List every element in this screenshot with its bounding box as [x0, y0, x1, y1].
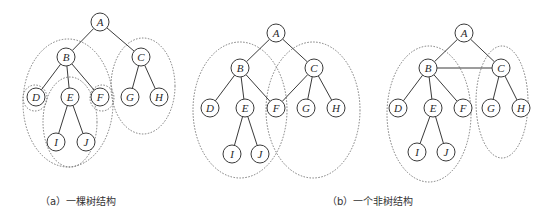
edge-a-B-F [72, 64, 94, 90]
node-b-B: B [231, 59, 249, 77]
node-label: D [393, 102, 402, 114]
edge-c-A-B [434, 39, 457, 61]
edge-b-B-D [215, 75, 234, 101]
edge-b-A-B [246, 39, 269, 61]
node-c-J: J [437, 143, 455, 161]
edge-b-A-C [283, 39, 308, 62]
node-label: B [425, 62, 432, 74]
edge-a-C-H [145, 65, 156, 89]
node-label: B [63, 51, 70, 63]
edge-a-A-C [107, 28, 134, 51]
node-label: C [137, 51, 145, 63]
node-label: G [487, 102, 495, 114]
node-label: E [429, 102, 437, 114]
node-label: E [241, 102, 249, 114]
node-label: F [272, 102, 280, 114]
edge-b-B-F [246, 75, 270, 102]
edge-b-B-E [241, 77, 244, 99]
node-label: A [272, 27, 280, 39]
node-a-D: D [27, 88, 45, 106]
node-label: H [331, 102, 341, 114]
node-label: B [237, 62, 244, 74]
edge-c-C-G [493, 77, 499, 100]
node-c-H: H [512, 99, 530, 117]
node-b-G: G [297, 99, 315, 117]
edges [41, 28, 517, 146]
edge-c-B-D [403, 75, 422, 101]
edge-c-C-H [505, 76, 517, 100]
node-b-J: J [251, 145, 269, 163]
node-b-H: H [327, 99, 345, 117]
node-a-I: I [47, 133, 65, 151]
node-label: C [497, 62, 505, 74]
node-label: A [96, 16, 104, 28]
node-label: G [302, 102, 310, 114]
node-label: D [31, 91, 40, 103]
edge-c-E-J [436, 117, 444, 144]
node-label: H [154, 91, 164, 103]
node-label: E [66, 91, 74, 103]
node-a-A: A [91, 13, 109, 31]
node-label: G [126, 91, 134, 103]
node-c-A: A [455, 24, 473, 42]
edge-c-A-C [471, 39, 495, 62]
edge-b-C-G [308, 77, 312, 99]
caption-figure-b: （b）一个非树结构 [327, 193, 413, 208]
node-b-I: I [223, 145, 241, 163]
node-c-I: I [408, 143, 426, 161]
node-c-B: B [419, 59, 437, 77]
edge-c-B-F [434, 75, 457, 101]
edge-c-B-E [429, 77, 432, 99]
tree-diagrams: ABCDEFGHIJABCDEFGHIJABCDEFGHIJ [0, 0, 551, 219]
node-label: D [205, 102, 214, 114]
nodes: ABCDEFGHIJABCDEFGHIJABCDEFGHIJ [27, 13, 530, 163]
node-label: F [96, 91, 104, 103]
node-label: H [516, 102, 526, 114]
edge-c-E-I [420, 116, 430, 143]
edge-b-C-F [282, 75, 308, 102]
node-a-C: C [132, 48, 150, 66]
node-b-E: E [236, 99, 254, 117]
node-c-D: D [389, 99, 407, 117]
node-a-H: H [150, 88, 168, 106]
node-c-F: F [454, 99, 472, 117]
edge-a-E-J [73, 105, 83, 133]
edge-b-E-J [248, 117, 257, 146]
node-c-C: C [492, 59, 510, 77]
node-label: A [460, 27, 468, 39]
caption-figure-a: （a）一棵树结构 [40, 193, 116, 208]
node-a-B: B [57, 48, 75, 66]
node-b-F: F [267, 99, 285, 117]
edge-a-E-I [59, 106, 68, 134]
node-label: C [310, 62, 318, 74]
node-a-G: G [121, 88, 139, 106]
node-c-E: E [424, 99, 442, 117]
edge-a-B-D [41, 64, 60, 90]
node-a-F: F [91, 88, 109, 106]
node-b-C: C [305, 59, 323, 77]
edge-a-C-G [132, 66, 138, 89]
node-a-J: J [77, 133, 95, 151]
node-label: F [459, 102, 467, 114]
node-c-G: G [482, 99, 500, 117]
node-a-E: E [61, 88, 79, 106]
node-b-A: A [267, 24, 285, 42]
node-b-D: D [201, 99, 219, 117]
edge-b-E-I [234, 117, 242, 146]
edge-b-C-H [318, 76, 331, 100]
